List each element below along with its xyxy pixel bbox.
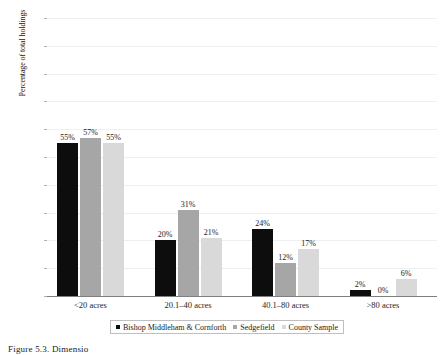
bar[interactable]: 57% (80, 138, 101, 296)
bar[interactable]: 12% (275, 263, 296, 296)
y-tick-mark (44, 129, 47, 130)
legend-item[interactable]: County Sample (282, 323, 339, 332)
y-tick-mark (44, 268, 47, 269)
bar[interactable]: 55% (57, 143, 78, 296)
bar-fill (103, 143, 124, 296)
bar-value-label: 21% (204, 228, 219, 237)
bar-fill (57, 143, 78, 296)
y-tick-mark (44, 240, 47, 241)
bar[interactable]: 6% (396, 279, 417, 296)
bar[interactable]: 2% (350, 290, 371, 296)
y-tick-mark (44, 157, 47, 158)
legend-swatch-icon (233, 325, 237, 329)
bar[interactable]: 55% (103, 143, 124, 296)
y-tick-mark (44, 46, 47, 47)
bar-fill (275, 263, 296, 296)
bar-fill (252, 229, 273, 296)
legend-swatch-icon (116, 325, 120, 329)
bar-value-label: 2% (355, 280, 366, 289)
bar-fill (396, 279, 417, 296)
legend-item[interactable]: Sedgefield (233, 323, 274, 332)
bar-value-label: 20% (158, 230, 173, 239)
bar-value-label: 12% (278, 253, 293, 262)
x-axis-category-label: >80 acres (367, 300, 400, 310)
bar-group: 2%0%6% (350, 18, 417, 296)
x-axis-category-label: <20 acres (74, 300, 107, 310)
bar-value-label: 55% (60, 133, 75, 142)
bar[interactable]: 24% (252, 229, 273, 296)
bar-fill (155, 240, 176, 296)
bar-fill (80, 138, 101, 296)
bar-value-label: 6% (401, 269, 412, 278)
y-tick-mark (44, 101, 47, 102)
bar-value-label: 24% (255, 219, 270, 228)
bar[interactable]: 20% (155, 240, 176, 296)
bar[interactable]: 21% (201, 238, 222, 296)
legend-item[interactable]: Bishop Middleham & Cornforth (116, 323, 226, 332)
y-axis-title: Percentage of total holdings (18, 0, 31, 113)
y-tick-mark (44, 296, 47, 297)
bar-group: 55%57%55% (57, 18, 124, 296)
bar-group: 20%31%21% (155, 18, 222, 296)
plot-area: 00.10.20.30.40.50.60.70.80.9155%57%55%<2… (47, 18, 437, 296)
bar-fill (178, 210, 199, 296)
chart-legend: Bishop Middleham & CornforthSedgefieldCo… (110, 320, 344, 334)
y-tick-mark (44, 74, 47, 75)
y-tick-mark (44, 213, 47, 214)
bar[interactable]: 17% (298, 249, 319, 296)
legend-swatch-icon (282, 325, 286, 329)
bar-fill (201, 238, 222, 296)
legend-label: County Sample (289, 323, 339, 332)
legend-label: Sedgefield (240, 323, 274, 332)
bar-value-label: 31% (181, 200, 196, 209)
bar-value-label: 55% (106, 133, 121, 142)
legend-label: Bishop Middleham & Cornforth (123, 323, 226, 332)
figure-caption: Figure 5.3. Dimensio (8, 344, 89, 354)
figure-bar-chart: Percentage of total holdings 00.10.20.30… (0, 0, 444, 355)
bar-fill (350, 290, 371, 296)
bar-fill (298, 249, 319, 296)
y-tick-mark (44, 185, 47, 186)
bar[interactable]: 31% (178, 210, 199, 296)
bar-value-label: 57% (83, 128, 98, 137)
bar-group: 24%12%17% (252, 18, 319, 296)
axis-baseline (47, 296, 437, 297)
bar-value-label: 17% (301, 239, 316, 248)
x-axis-category-label: 40.1–80 acres (262, 300, 309, 310)
y-tick-mark (44, 18, 47, 19)
x-axis-category-label: 20.1–40 acres (164, 300, 211, 310)
bar-value-label: 0% (378, 286, 389, 295)
